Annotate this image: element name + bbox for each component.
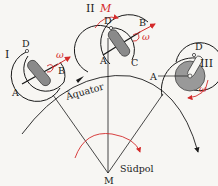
point-label-B: B [139,17,146,28]
point-label-D: D [195,41,203,52]
omega-label: ω [142,31,150,42]
gyroscope-position-II: II M D B A C ω [74,2,155,72]
gyroscope-position-III: D III A ω [149,41,218,98]
rotor-center [188,74,192,78]
equator-arrow-icon [76,76,84,83]
point-D [109,26,112,29]
position-label-II: II [86,2,95,15]
point-label-C: C [131,57,138,68]
point-label-D: D [104,15,112,26]
point-label-A: A [99,55,107,66]
point-label-A: A [11,87,19,98]
rotor [106,28,131,58]
south-pole-label: Südpol [120,163,154,174]
point-label-B: B [58,65,65,76]
position-label-I: I [5,48,9,61]
gyroscope-diagram: I D B A ω II M D B A C ω D III A ω [0,0,218,186]
position-label-III: III [200,57,213,70]
omega-label: ω [199,83,207,94]
center-label: M [104,175,114,186]
equator-arc [22,75,198,152]
torque-label: M [99,2,112,15]
equator-label: Äquator [64,81,106,103]
earth-rotation-arrow [75,134,140,159]
radius-line-right [108,94,163,173]
point-D [25,49,28,52]
point-D [192,53,195,56]
point-label-D: D [22,38,30,49]
gyroscope-position-I: I D B A ω [5,38,70,101]
point-label-A: A [149,71,157,82]
omega-label: ω [56,49,64,60]
